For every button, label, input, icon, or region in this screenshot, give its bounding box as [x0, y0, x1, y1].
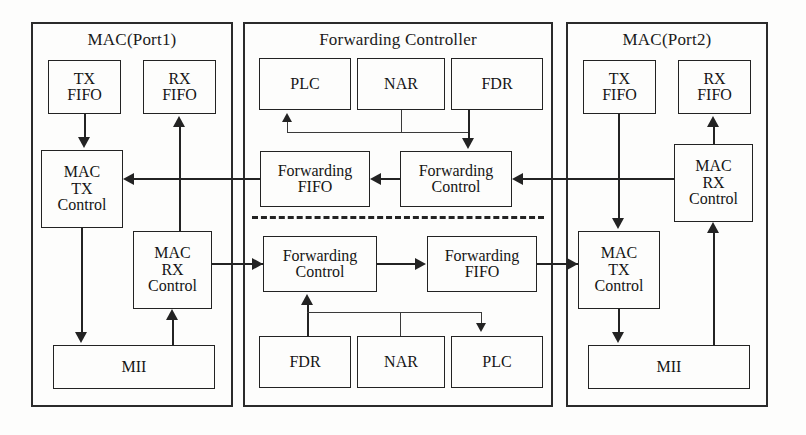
- arrowhead-right-mactx-to-mii: [612, 332, 624, 343]
- divider-dashed-separator: [252, 216, 544, 219]
- block-right-mii[interactable]: MII: [588, 345, 750, 389]
- conn-mid-top-fwdcontrol-to-fwdfifo: [381, 178, 400, 180]
- conn-right-macrx-to-rxfifo: [713, 127, 715, 145]
- block-mid-bot-fdr[interactable]: FDR: [259, 336, 351, 388]
- arrowhead-left-mii-to-macrx: [166, 309, 178, 320]
- block-mid-bot-forwarding-control[interactable]: Forwarding Control: [263, 236, 377, 292]
- block-mid-top-nar[interactable]: NAR: [357, 58, 445, 110]
- conn-mid-top-bus-nar-drop: [401, 110, 402, 133]
- block-right-mac-rx-control[interactable]: MAC RX Control: [674, 144, 753, 222]
- block-diagram-canvas: MAC(Port1) TX FIFO RX FIFO MAC TX Contro…: [0, 0, 806, 435]
- arrowhead-right-mii-to-macrx: [707, 222, 719, 233]
- arrowhead-mid-bot-fdr-to-fwdcontrol: [301, 294, 313, 305]
- block-left-mac-tx-control[interactable]: MAC TX Control: [41, 150, 123, 228]
- block-left-mac-rx-control[interactable]: MAC RX Control: [133, 231, 212, 309]
- conn-mid-top-fdr-to-fwdcontrol: [468, 110, 470, 140]
- conn-left-mactx-to-mii: [81, 228, 83, 333]
- block-mid-bot-plc[interactable]: PLC: [451, 336, 543, 388]
- conn-mid-bot-bus: [307, 312, 482, 313]
- conn-mid-bot-fdr-to-fwdcontrol: [307, 305, 309, 337]
- conn-right-mactx-to-mii: [618, 309, 620, 333]
- panel-forwarding-controller-title: Forwarding Controller: [245, 30, 551, 50]
- block-left-tx-fifo[interactable]: TX FIFO: [48, 60, 121, 114]
- block-right-rx-fifo[interactable]: RX FIFO: [678, 60, 751, 114]
- conn-left-mii-to-macrx: [172, 320, 174, 346]
- arrowhead-lower-path-into-fwdcontrol: [252, 258, 263, 270]
- conn-mid-top-bus-plc-riser: [287, 122, 288, 133]
- conn-right-mii-to-macrx: [713, 233, 715, 345]
- conn-upper-path-left-segment: [134, 178, 260, 180]
- block-mid-bot-nar[interactable]: NAR: [357, 336, 445, 388]
- arrowhead-upper-path-into-fwdcontrol: [512, 173, 523, 185]
- arrowhead-right-macrx-to-rxfifo: [707, 116, 719, 127]
- conn-left-txfifo-to-mactx: [84, 114, 86, 139]
- arrowhead-mid-top-bus-to-plc: [282, 113, 292, 122]
- arrowhead-lower-path-into-mactx: [567, 258, 578, 270]
- panel-mac-port1-title: MAC(Port1): [33, 30, 231, 50]
- block-mid-top-forwarding-control[interactable]: Forwarding Control: [400, 151, 512, 207]
- arrowhead-left-macrx-to-rxfifo: [173, 116, 185, 127]
- conn-right-txfifo-to-mactx: [618, 114, 620, 219]
- block-mid-top-plc[interactable]: PLC: [259, 58, 351, 110]
- arrowhead-mid-top-fdr-to-fwdcontrol: [462, 138, 474, 149]
- panel-mac-port2-title: MAC(Port2): [568, 30, 766, 50]
- arrowhead-right-txfifo-to-mactx: [612, 218, 624, 229]
- arrowhead-left-mactx-to-mii: [75, 332, 87, 343]
- block-mid-top-fdr[interactable]: FDR: [451, 58, 543, 110]
- block-mid-bot-forwarding-fifo[interactable]: Forwarding FIFO: [427, 236, 537, 292]
- arrowhead-mid-top-fwdcontrol-to-fwdfifo: [370, 173, 381, 185]
- arrowhead-left-txfifo-to-mactx: [78, 137, 90, 148]
- conn-mid-bot-bus-nar-riser: [400, 312, 401, 336]
- arrowhead-mid-bot-bus-to-plc: [476, 323, 486, 332]
- block-mid-top-forwarding-fifo[interactable]: Forwarding FIFO: [260, 151, 370, 207]
- conn-mid-top-bus: [287, 132, 469, 133]
- arrowhead-mid-bot-fwdcontrol-to-fwdfifo: [415, 258, 426, 270]
- arrowhead-upper-path-into-mactx: [123, 173, 134, 185]
- block-left-mii[interactable]: MII: [53, 345, 215, 389]
- block-left-rx-fifo[interactable]: RX FIFO: [143, 60, 216, 114]
- block-right-tx-fifo[interactable]: TX FIFO: [583, 60, 656, 114]
- conn-upper-path-right-segment: [523, 178, 674, 180]
- conn-mid-bot-fwdcontrol-to-fwdfifo: [377, 263, 416, 265]
- block-right-mac-tx-control[interactable]: MAC TX Control: [578, 231, 660, 309]
